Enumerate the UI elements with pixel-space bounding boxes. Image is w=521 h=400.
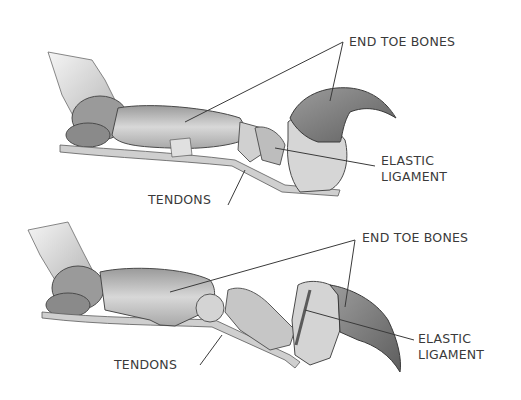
label-end-toe-bones-top: END TOE BONES [349, 34, 455, 49]
toe-bone-2-bottom [225, 288, 295, 350]
label-end-toe-bones-bottom: END TOE BONES [362, 230, 468, 245]
claw-top [290, 88, 396, 142]
label-tendons-top: TENDONS [148, 192, 211, 207]
extended-claw-diagram [28, 222, 414, 372]
middle-joint-top [255, 127, 285, 165]
joint-ball-bottom [196, 294, 224, 322]
end-bone-bottom [292, 281, 340, 365]
label-elastic-ligament-top-line1: ELASTIC [381, 153, 434, 168]
knuckle-lower-top [66, 123, 110, 147]
tendon-wrap-top [170, 138, 192, 157]
label-elastic-ligament-top-line2: LIGAMENT [381, 169, 447, 184]
label-elastic-ligament-bottom-line2: LIGAMENT [418, 347, 484, 362]
label-elastic-ligament-bottom-line1: ELASTIC [418, 331, 471, 346]
label-tendons-bottom: TENDONS [114, 357, 177, 372]
retracted-claw-diagram [48, 42, 396, 205]
claw-bottom [330, 285, 401, 372]
